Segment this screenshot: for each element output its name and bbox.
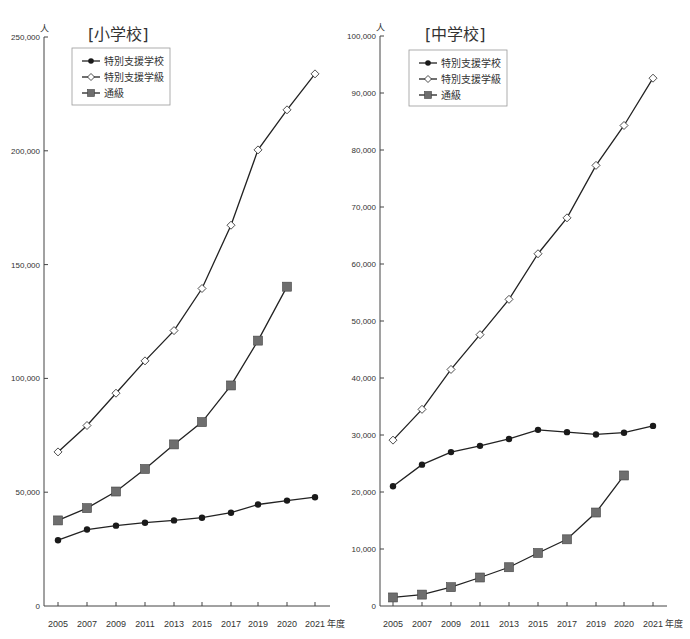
- y-tick-label: 80,000: [352, 146, 377, 155]
- filled-circle-marker: [621, 430, 627, 436]
- filled-circle-marker: [390, 483, 396, 489]
- x-tick-label: 2011: [470, 619, 489, 629]
- x-tick-label: 2009: [106, 619, 126, 629]
- gray-square-marker: [198, 418, 207, 427]
- y-tick-label: 70,000: [352, 203, 377, 212]
- gray-square-marker: [563, 535, 572, 544]
- series-filled-circle: [390, 423, 656, 490]
- filled-circle-marker: [199, 514, 205, 520]
- series-line: [58, 287, 287, 521]
- x-tick-label: 2011: [135, 619, 154, 629]
- x-tick-label: 2019: [586, 619, 606, 629]
- series-line: [393, 475, 624, 597]
- y-tick-label: 60,000: [352, 260, 377, 269]
- y-tick-label: 50,000: [16, 488, 41, 497]
- x-tick-label: 2020: [277, 619, 297, 629]
- gray-square-marker: [170, 440, 179, 449]
- x-tick-label: 2015: [528, 619, 548, 629]
- gray-square-marker: [620, 471, 629, 480]
- filled-circle-marker: [425, 60, 431, 66]
- series-line: [58, 497, 315, 540]
- gray-square-marker: [141, 464, 150, 473]
- gray-square-marker: [476, 573, 485, 582]
- filled-circle-marker: [113, 522, 119, 528]
- gray-square-marker: [592, 508, 601, 517]
- series-open-diamond: [54, 70, 319, 456]
- filled-circle-marker: [255, 501, 261, 507]
- y-tick-label: 10,000: [352, 545, 377, 554]
- filled-circle-marker: [535, 427, 541, 433]
- series-line: [393, 78, 653, 440]
- charts-figure: 人050,000100,000150,000200,000250,0002005…: [0, 0, 690, 639]
- filled-circle-marker: [593, 431, 599, 437]
- x-unit-label: 年度: [327, 618, 345, 629]
- gray-square-marker: [254, 336, 263, 345]
- x-tick-label: 2021: [643, 619, 663, 629]
- legend: 特別支援学校特別支援学級通級: [72, 48, 170, 105]
- y-tick-label: 150,000: [11, 261, 40, 270]
- chart-junior-high-school: 人010,00020,00030,00040,00050,00060,00070…: [347, 23, 683, 629]
- x-tick-label: 2013: [499, 619, 519, 629]
- y-tick-label: 0: [372, 602, 377, 611]
- y-tick-label: 50,000: [352, 317, 377, 326]
- filled-circle-marker: [477, 443, 483, 449]
- filled-circle-marker: [88, 58, 94, 64]
- x-tick-label: 2005: [383, 619, 403, 629]
- x-tick-label: 2007: [77, 619, 97, 629]
- y-tick-label: 200,000: [11, 147, 40, 156]
- open-diamond-marker: [227, 221, 235, 229]
- y-tick-label: 100,000: [11, 374, 40, 383]
- x-tick-label: 2017: [221, 619, 241, 629]
- legend-label: 特別支援学級: [104, 71, 164, 83]
- gray-square-marker: [425, 92, 432, 99]
- y-unit-label: 人: [376, 23, 385, 33]
- open-diamond-marker: [198, 284, 206, 292]
- y-tick-label: 40,000: [352, 374, 377, 383]
- legend-label: 通級: [104, 87, 124, 99]
- x-tick-label: 2013: [164, 619, 184, 629]
- series-filled-circle: [55, 494, 318, 543]
- x-tick-label: 2007: [412, 619, 432, 629]
- legend-label: 特別支援学級: [441, 73, 501, 85]
- y-tick-label: 100,000: [347, 32, 376, 41]
- y-tick-label: 250,000: [11, 33, 40, 42]
- x-tick-label: 2017: [557, 619, 577, 629]
- series-gray-square: [389, 471, 629, 602]
- x-unit-label: 年度: [665, 618, 683, 629]
- gray-square-marker: [112, 487, 121, 496]
- filled-circle-marker: [312, 494, 318, 500]
- gray-square-marker: [505, 563, 514, 572]
- x-tick-label: 2021: [305, 619, 325, 629]
- series-line: [58, 74, 315, 452]
- legend-label: 特別支援学校: [441, 57, 501, 69]
- gray-square-marker: [283, 282, 292, 291]
- gray-square-marker: [54, 516, 63, 525]
- x-tick-label: 2019: [248, 619, 268, 629]
- y-tick-label: 90,000: [352, 89, 377, 98]
- x-tick-label: 2005: [48, 619, 68, 629]
- filled-circle-marker: [448, 449, 454, 455]
- legend: 特別支援学校特別支援学級通級: [409, 50, 507, 106]
- filled-circle-marker: [142, 519, 148, 525]
- open-diamond-marker: [649, 74, 657, 82]
- gray-square-marker: [447, 583, 456, 592]
- gray-square-marker: [418, 590, 427, 599]
- series-gray-square: [54, 282, 292, 525]
- filled-circle-marker: [650, 423, 656, 429]
- x-tick-label: 2015: [192, 619, 212, 629]
- chart-title: [中学校]: [425, 25, 485, 44]
- gray-square-marker: [227, 381, 236, 390]
- filled-circle-marker: [55, 537, 61, 543]
- y-unit-label: 人: [40, 24, 49, 34]
- y-tick-label: 30,000: [352, 431, 377, 440]
- x-tick-label: 2020: [614, 619, 634, 629]
- filled-circle-marker: [284, 497, 290, 503]
- open-diamond-marker: [620, 121, 628, 129]
- filled-circle-marker: [564, 429, 570, 435]
- chart-elementary-school: 人050,000100,000150,000200,000250,0002005…: [11, 24, 345, 629]
- y-tick-label: 20,000: [352, 488, 377, 497]
- series-line: [393, 426, 653, 486]
- chart-title: [小学校]: [88, 25, 148, 44]
- gray-square-marker: [83, 504, 92, 513]
- gray-square-marker: [88, 90, 95, 97]
